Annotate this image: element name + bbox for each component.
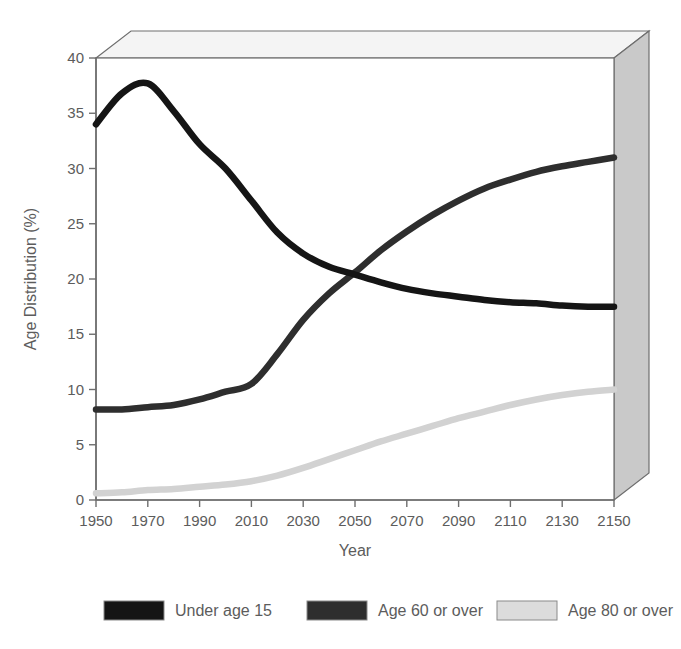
y-tick-label: 30 (67, 160, 84, 177)
legend-swatch-0 (104, 601, 164, 620)
y-tick-label: 5 (76, 436, 84, 453)
y-tick-label: 35 (67, 104, 84, 121)
y-axis-ticks: 0510152025303540 (67, 49, 96, 508)
y-tick-label: 20 (67, 270, 84, 287)
y-tick-label: 40 (67, 49, 84, 66)
x-tick-label: 2110 (494, 512, 526, 529)
chart-3d-box (96, 31, 649, 500)
plot-front-face (96, 58, 614, 500)
box-top-face (96, 31, 649, 58)
x-tick-label: 1970 (131, 512, 164, 529)
box-right-wall (614, 31, 649, 500)
y-tick-label: 25 (67, 215, 84, 232)
y-tick-label: 15 (67, 325, 84, 342)
legend-label-1: Age 60 or over (378, 602, 484, 619)
legend-swatch-1 (307, 601, 367, 620)
y-tick-label: 10 (67, 381, 84, 398)
x-tick-label: 2050 (338, 512, 371, 529)
x-axis-ticks: 1950197019902010203020502070209021102130… (79, 500, 630, 529)
x-tick-label: 2030 (287, 512, 320, 529)
x-tick-label: 2150 (597, 512, 630, 529)
legend-label-2: Age 80 or over (568, 602, 674, 619)
chart-legend: Under age 15Age 60 or overAge 80 or over (104, 601, 674, 620)
legend-swatch-2 (497, 601, 557, 620)
x-tick-label: 1950 (79, 512, 112, 529)
legend-label-0: Under age 15 (175, 602, 272, 619)
x-axis-title: Year (339, 542, 372, 559)
chart-figure: 0510152025303540 19501970199020102030205… (0, 0, 681, 649)
y-tick-label: 0 (76, 491, 84, 508)
x-tick-label: 2070 (390, 512, 423, 529)
x-tick-label: 1990 (183, 512, 216, 529)
y-axis-title: Age Distribution (%) (22, 208, 39, 350)
x-tick-label: 2130 (546, 512, 579, 529)
age-distribution-line-chart: 0510152025303540 19501970199020102030205… (0, 0, 681, 649)
x-tick-label: 2010 (235, 512, 268, 529)
x-tick-label: 2090 (442, 512, 475, 529)
